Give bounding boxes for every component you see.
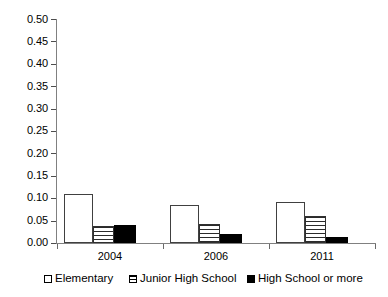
- x-axis-divider: [269, 244, 270, 249]
- bar-2004-junior: [93, 226, 114, 243]
- legend-label-elementary: Elementary: [55, 272, 113, 285]
- legend-label-junior: Junior High School: [140, 272, 237, 285]
- x-axis-divider: [163, 244, 164, 249]
- y-tick-label: 0.35: [2, 81, 48, 92]
- y-tick-label: 0.05: [2, 215, 48, 226]
- x-axis-label-2006: 2006: [163, 250, 269, 263]
- y-tick-label: 0.20: [2, 148, 48, 159]
- bar-2006-junior: [199, 224, 220, 243]
- y-tick-label: 0.50: [2, 14, 48, 25]
- y-tick-label: 0.45: [2, 36, 48, 47]
- legend-item-junior: Junior High School: [129, 272, 237, 285]
- bar-group-2011: [269, 19, 375, 243]
- y-tick-label: 0.25: [2, 125, 48, 136]
- legend-label-high: High School or more: [258, 272, 363, 285]
- bar-chart: 0.50 0.45 0.40 0.35 0.30 0.25 0.20 0.15 …: [0, 0, 388, 297]
- bar-2011-junior: [305, 216, 326, 243]
- legend-item-high: High School or more: [247, 272, 363, 285]
- x-axis-divider: [375, 244, 376, 249]
- bar-group-2004: [57, 19, 163, 243]
- y-tick-label: 0.15: [2, 170, 48, 181]
- legend-item-elementary: Elementary: [44, 272, 113, 285]
- x-axis-label-2011: 2011: [269, 250, 375, 263]
- y-tick-label: 0.10: [2, 192, 48, 203]
- bar-2011-high: [326, 237, 348, 243]
- chart-legend: Elementary Junior High School High Schoo…: [44, 272, 384, 290]
- plot-area: [57, 19, 376, 243]
- bar-group-2006: [163, 19, 269, 243]
- legend-swatch-elementary-icon: [44, 275, 52, 283]
- x-axis-label-2004: 2004: [57, 250, 163, 263]
- x-axis-line: [56, 243, 376, 244]
- bar-2004-elementary: [64, 194, 93, 243]
- y-tick-label: 0.00: [2, 237, 48, 248]
- bar-2006-high: [220, 234, 242, 243]
- y-tick-label: 0.40: [2, 58, 48, 69]
- bar-2004-high: [114, 225, 136, 243]
- legend-swatch-high-icon: [247, 275, 255, 283]
- y-axis: 0.50 0.45 0.40 0.35 0.30 0.25 0.20 0.15 …: [0, 0, 48, 250]
- y-tick-label: 0.30: [2, 103, 48, 114]
- legend-swatch-junior-icon: [129, 275, 137, 283]
- bar-2006-elementary: [170, 205, 199, 243]
- bar-2011-elementary: [276, 202, 305, 243]
- x-axis-divider: [57, 244, 58, 249]
